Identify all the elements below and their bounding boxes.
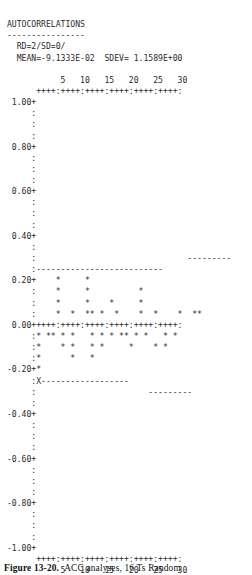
plot-row: :* ** * * * * * ** * * * * <box>7 331 231 342</box>
plot-row: -0.60+ <box>7 454 231 465</box>
plot-row: 0.40+ <box>7 231 231 242</box>
plot-row: : <box>7 242 231 253</box>
plot-row: : <box>7 487 231 498</box>
plot-row: : <box>7 442 231 453</box>
plot-row: -0.80+ <box>7 498 231 509</box>
plot-row: : * * ** * * * * * ** <box>7 309 231 320</box>
figure-caption-text: ACC analyses, 16 Ts Random <box>64 563 181 573</box>
blank-line-1 <box>7 64 231 75</box>
plot-row: : <box>7 509 231 520</box>
figure-caption: Figure 13-20. ACC analyses, 16 Ts Random <box>4 563 250 575</box>
plot-row: :X------------------ <box>7 376 231 387</box>
report-rule: ---------------- <box>7 30 231 41</box>
figure-number: Figure 13-20. <box>4 563 59 573</box>
plot-row: : <box>7 398 231 409</box>
plot-row: : <box>7 220 231 231</box>
plot-row: :* * * <box>7 353 231 364</box>
plot-row: : <box>7 175 231 186</box>
plot-row: : <box>7 119 231 130</box>
plot-row: : <box>7 465 231 476</box>
plot-row: : <box>7 532 231 543</box>
plot-row: 0.20+ * * <box>7 275 231 286</box>
autocorrelation-figure: AUTOCORRELATIONS---------------- RD=2/SD… <box>0 0 252 575</box>
report-params: RD=2/SD=0/ <box>7 41 231 52</box>
plot-row: : * * * <box>7 286 231 297</box>
plot-row: : * * * * <box>7 298 231 309</box>
top-axis-tick-labels: 5 10 15 20 25 30 <box>7 75 231 86</box>
plot-row: : <box>7 520 231 531</box>
plot-row: : <box>7 208 231 219</box>
plot-row: : <box>7 164 231 175</box>
plot-row: :-------------------------- <box>7 264 231 275</box>
plot-row: 0.00+++++:++++:++++:++++:++++:++++: <box>7 320 231 331</box>
ascii-plot-listing: AUTOCORRELATIONS---------------- RD=2/SD… <box>7 19 231 575</box>
plot-row: : <box>7 153 231 164</box>
top-axis-tick-marks: ++++:++++:++++:++++:++++:++++: <box>7 86 231 97</box>
plot-row: 0.60+ <box>7 186 231 197</box>
plot-row: : <box>7 431 231 442</box>
plot-row: : <box>7 476 231 487</box>
plot-row: -1.00+ <box>7 543 231 554</box>
plot-row: : --------- <box>7 253 231 264</box>
plot-row: : <box>7 420 231 431</box>
plot-row: 0.80+ <box>7 142 231 153</box>
plot-row: 1.00+ <box>7 97 231 108</box>
plot-row: : <box>7 108 231 119</box>
plot-row: :* * * * * * * * <box>7 342 231 353</box>
plot-row: : <box>7 131 231 142</box>
report-stats: MEAN=-9.1333E-02 SDEV= 1.1589E+00 <box>7 53 231 64</box>
plot-row: -0.40+ <box>7 409 231 420</box>
report-title: AUTOCORRELATIONS <box>7 19 231 30</box>
plot-row: : --------- <box>7 387 231 398</box>
plot-row: -0.20+* <box>7 364 231 375</box>
plot-row: : <box>7 197 231 208</box>
